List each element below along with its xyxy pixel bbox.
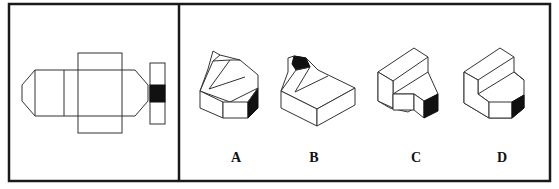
option-a-label[interactable]: A	[221, 150, 251, 166]
net-right-cap	[135, 70, 148, 116]
net-center-face	[78, 53, 122, 133]
option-c-label[interactable]: C	[401, 150, 431, 166]
option-a-figure[interactable]	[200, 51, 258, 118]
question-net	[22, 53, 165, 133]
net-left-cap	[22, 70, 35, 116]
option-d-label[interactable]: D	[487, 150, 517, 166]
puzzle-figure: A B C D	[0, 0, 559, 189]
option-b-label[interactable]: B	[299, 150, 329, 166]
net-shaded-face	[150, 85, 165, 102]
option-d-figure[interactable]	[464, 48, 524, 118]
option-c-figure[interactable]	[378, 48, 438, 118]
option-b-figure[interactable]	[281, 56, 355, 126]
puzzle-canvas	[0, 0, 559, 189]
